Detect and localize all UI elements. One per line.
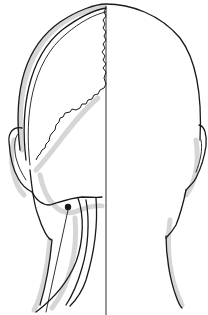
shading [12,7,198,310]
left-muscle-band-2 [66,200,88,305]
skull-inner-outline-2 [28,12,106,165]
head-illustration [0,0,208,315]
sagittal-suture [102,8,106,88]
acupoint-marker [65,204,71,210]
left-jaw-line [32,192,102,205]
head-outline [18,4,200,150]
